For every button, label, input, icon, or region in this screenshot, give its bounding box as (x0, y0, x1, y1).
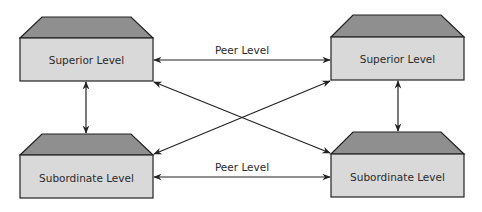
box-label: Superior Level (49, 54, 124, 66)
box-top-left-superior: Superior Level (20, 17, 153, 81)
box-label: Subordinate Level (350, 171, 445, 183)
box-bottom-right-subordinate: Subordinate Level (331, 132, 464, 197)
arrow-peer-bottom: Peer Level (154, 161, 330, 177)
box-label: Subordinate Level (39, 172, 134, 184)
box-bottom-left-subordinate: Subordinate Level (20, 134, 153, 198)
peer-level-label: Peer Level (215, 161, 269, 173)
arrow-peer-top: Peer Level (154, 44, 330, 60)
peer-level-label: Peer Level (215, 44, 269, 56)
hierarchy-diagram: Superior Level Superior Level Subordinat… (0, 0, 482, 212)
box-label: Superior Level (360, 53, 435, 65)
box-top-right-superior: Superior Level (331, 15, 464, 80)
arrow-diagonal-topright-bottomleft (154, 81, 330, 154)
